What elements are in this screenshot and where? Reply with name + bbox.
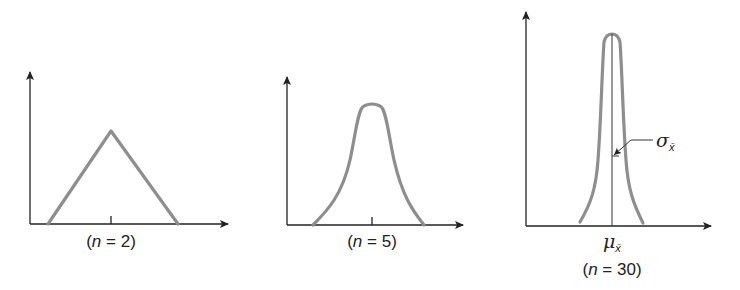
bell-distribution-curve [313,104,424,225]
sigma-pointer-arrow-icon [614,140,653,155]
sampling-distribution-figure: (n = 2) (n = 5) σx̄ μx̄ (n = 30) [0,0,740,290]
triangular-distribution-curve [48,131,178,224]
panel-label-n2: (n = 2) [86,232,136,251]
sigma-label: σx̄ [656,129,675,153]
panel-n30: σx̄ μx̄ (n = 30) [526,12,711,279]
panel-label-n5: (n = 5) [347,232,397,251]
panel-n2: (n = 2) [30,72,228,251]
mu-label: μx̄ [603,230,621,254]
panel-n5: (n = 5) [287,77,463,251]
panel-label-n30: (n = 30) [582,260,641,279]
